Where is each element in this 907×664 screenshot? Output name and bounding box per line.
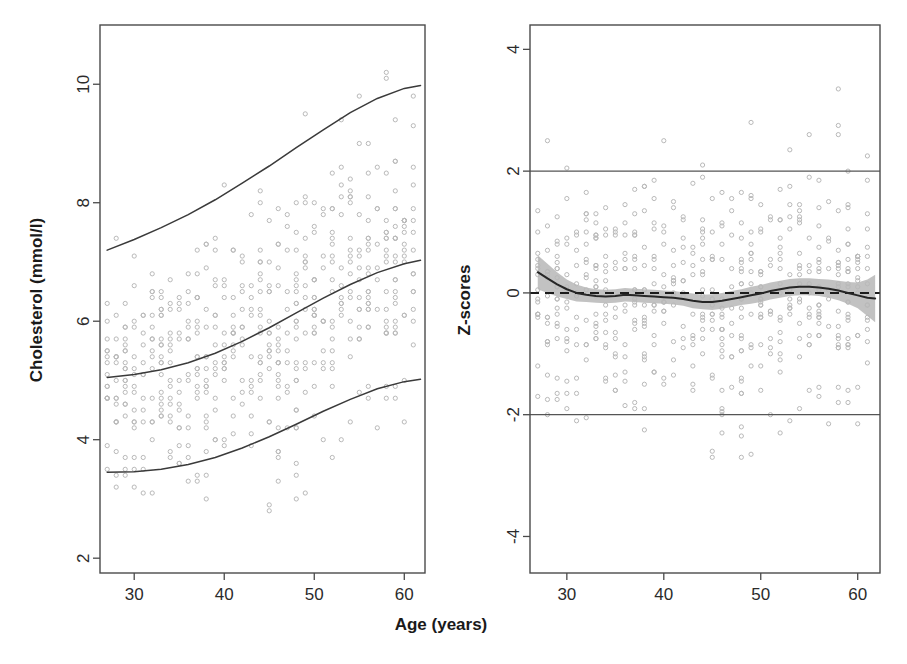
data-point xyxy=(177,301,181,305)
data-point xyxy=(865,254,869,258)
data-point xyxy=(312,307,316,311)
data-point xyxy=(267,284,271,288)
data-point xyxy=(267,331,271,335)
data-point xyxy=(671,282,675,286)
data-point xyxy=(123,455,127,459)
data-point xyxy=(817,333,821,337)
data-point xyxy=(249,313,253,317)
data-point xyxy=(258,361,262,365)
data-point xyxy=(720,336,724,340)
data-point xyxy=(357,254,361,258)
data-point xyxy=(177,378,181,382)
data-point xyxy=(613,388,617,392)
data-point xyxy=(584,318,588,322)
data-point xyxy=(186,289,190,293)
data-point xyxy=(384,218,388,222)
data-point xyxy=(720,349,724,353)
data-point xyxy=(691,336,695,340)
data-point xyxy=(393,118,397,122)
data-point xyxy=(114,378,118,382)
data-point xyxy=(384,307,388,311)
data-point xyxy=(393,236,397,240)
data-point xyxy=(195,272,199,276)
data-point xyxy=(231,331,235,335)
chart-svg: 30405060 246810 Cholesterol (mmol/l) 304… xyxy=(0,0,907,664)
data-point xyxy=(836,248,840,252)
data-point xyxy=(195,396,199,400)
data-point xyxy=(195,367,199,371)
data-point xyxy=(749,230,753,234)
data-point xyxy=(565,300,569,304)
data-point xyxy=(330,384,334,388)
data-point xyxy=(177,295,181,299)
data-point xyxy=(276,343,280,347)
data-point xyxy=(846,336,850,340)
data-point xyxy=(330,337,334,341)
x-tick-label: 60 xyxy=(848,585,867,604)
data-point xyxy=(285,248,289,252)
data-point xyxy=(186,378,190,382)
data-point xyxy=(545,373,549,377)
data-point xyxy=(321,254,325,258)
data-point xyxy=(312,313,316,317)
data-point xyxy=(258,260,262,264)
data-point xyxy=(623,203,627,207)
data-point xyxy=(195,319,199,323)
data-point xyxy=(159,414,163,418)
data-point xyxy=(132,390,136,394)
data-point xyxy=(141,343,145,347)
data-point xyxy=(204,414,208,418)
data-point xyxy=(797,297,801,301)
data-point xyxy=(168,307,172,311)
data-point xyxy=(123,367,127,371)
data-point xyxy=(633,266,637,270)
data-point xyxy=(836,123,840,127)
data-point xyxy=(357,337,361,341)
y-tick-label: 2 xyxy=(75,553,94,562)
data-point xyxy=(691,312,695,316)
data-point xyxy=(285,390,289,394)
centile-curve xyxy=(107,379,420,472)
data-point xyxy=(749,346,753,350)
data-point xyxy=(778,318,782,322)
data-point xyxy=(402,420,406,424)
data-point xyxy=(555,321,559,325)
data-point xyxy=(330,236,334,240)
data-point xyxy=(303,254,307,258)
data-point xyxy=(613,336,617,340)
data-point xyxy=(662,321,666,325)
data-point xyxy=(267,367,271,371)
data-point xyxy=(168,455,172,459)
data-point xyxy=(856,385,860,389)
data-point xyxy=(807,312,811,316)
data-point xyxy=(204,378,208,382)
data-point xyxy=(285,289,289,293)
data-point xyxy=(633,407,637,411)
data-point xyxy=(231,313,235,317)
data-point xyxy=(700,312,704,316)
data-point xyxy=(393,325,397,329)
data-point xyxy=(204,242,208,246)
data-point xyxy=(123,378,127,382)
data-point xyxy=(807,133,811,137)
data-point xyxy=(294,272,298,276)
data-point xyxy=(321,438,325,442)
data-point xyxy=(545,315,549,319)
data-point xyxy=(797,321,801,325)
data-point xyxy=(375,207,379,211)
data-point xyxy=(411,248,415,252)
data-point xyxy=(312,230,316,234)
data-point xyxy=(366,307,370,311)
data-point xyxy=(411,94,415,98)
data-point xyxy=(159,355,163,359)
data-point xyxy=(817,245,821,249)
data-point xyxy=(846,206,850,210)
data-point xyxy=(393,289,397,293)
data-point xyxy=(565,340,569,344)
data-point xyxy=(652,309,656,313)
data-point xyxy=(168,414,172,418)
data-point xyxy=(258,289,262,293)
data-point xyxy=(730,209,734,213)
x-tick-label: 50 xyxy=(751,585,770,604)
data-point xyxy=(348,195,352,199)
